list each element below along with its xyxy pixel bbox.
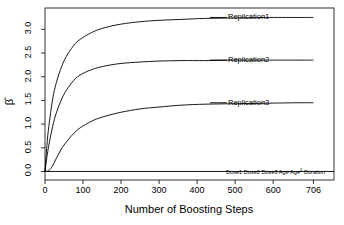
x-tick-label: 100 bbox=[76, 185, 91, 195]
x-tick-label: 300 bbox=[152, 185, 167, 195]
y-tick-label: 0.0 bbox=[22, 165, 35, 175]
y-tick-label: 1.5 bbox=[22, 94, 35, 104]
x-tick-label: 706 bbox=[306, 185, 321, 195]
plot-area bbox=[0, 0, 344, 225]
y-tick-label: 2.0 bbox=[22, 71, 35, 81]
x-tick-label: 600 bbox=[266, 185, 281, 195]
series-label-replication3: Replication3 bbox=[228, 98, 269, 107]
series-label-replication2: Replication2 bbox=[228, 55, 269, 64]
flat-covariates-label: Dose1 Dose2 Dose3 Age Age2 Duration bbox=[226, 167, 325, 175]
series-line-replication2 bbox=[45, 60, 313, 171]
series-label-replication1: Replication1 bbox=[228, 12, 269, 21]
x-tick-label: 200 bbox=[114, 185, 129, 195]
x-tick-label: 0 bbox=[42, 185, 47, 195]
y-tick-label: 3.0 bbox=[22, 23, 35, 33]
y-tick-label: 2.5 bbox=[22, 47, 35, 57]
boosting-coefficient-paths-chart: β̂ Number of Boosting Steps 0.00.51.01.5… bbox=[0, 0, 344, 225]
y-tick-label: 0.5 bbox=[22, 142, 35, 152]
x-tick-label: 400 bbox=[190, 185, 205, 195]
series-line-replication3 bbox=[45, 103, 313, 172]
y-tick-label: 1.0 bbox=[22, 118, 35, 128]
x-tick-label: 500 bbox=[228, 185, 243, 195]
series-line-replication1 bbox=[45, 17, 313, 171]
